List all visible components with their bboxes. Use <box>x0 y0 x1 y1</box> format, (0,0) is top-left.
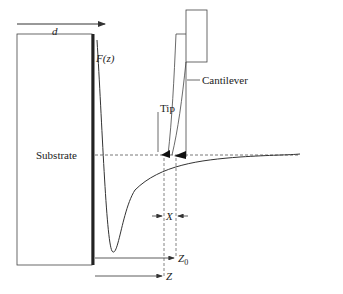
cantilever-base <box>186 10 207 62</box>
x-label: X <box>166 211 173 222</box>
diagram-graphics <box>0 0 343 294</box>
tip-label: Tip <box>160 103 175 114</box>
cantilever-label: Cantilever <box>202 75 248 86</box>
cantilever-deflected <box>168 34 176 155</box>
substrate-label: Substrate <box>36 150 77 161</box>
tip-deflected-icon <box>161 150 170 158</box>
force-label: F(z) <box>96 53 114 64</box>
z0-label: Z0 <box>178 253 188 267</box>
afm-diagram: d F(z) Cantilever Tip Substrate X Z0 Z <box>0 0 343 294</box>
z-label: Z <box>166 271 172 282</box>
force-curve <box>97 40 300 252</box>
d-label: d <box>52 26 58 37</box>
